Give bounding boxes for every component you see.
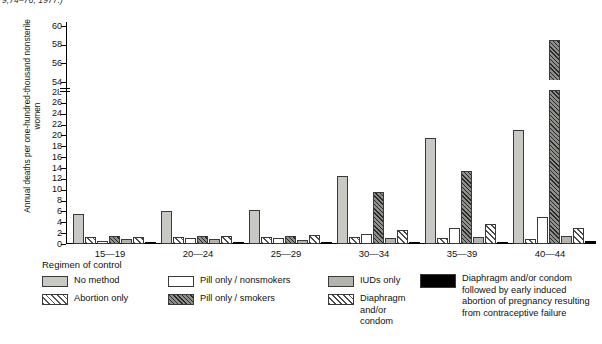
y-axis-tick-labels: 024681012141618202224262854565860 [30, 22, 62, 244]
bar[interactable] [197, 236, 208, 244]
bar[interactable] [221, 236, 232, 244]
legend-swatch-pill-smokers [168, 294, 194, 305]
bar[interactable] [233, 242, 244, 244]
bar-break-gap [549, 80, 560, 83]
bar[interactable] [161, 211, 172, 244]
x-axis-group-label: 40—44 [506, 248, 594, 259]
bar[interactable] [449, 228, 460, 244]
bar[interactable] [133, 237, 144, 244]
legend-item-abortion-only[interactable]: Abortion only [42, 293, 128, 305]
x-axis-group-label: 30—34 [330, 248, 418, 259]
bar-group [249, 22, 332, 244]
y-axis-line [66, 22, 67, 244]
bar-group [425, 22, 508, 244]
bar[interactable] [537, 217, 548, 244]
bar-group [513, 22, 596, 244]
legend-swatch-pill-nonsmokers [168, 276, 194, 287]
chart-figure: 9;74–76, 1977.) Annual deaths per one-hu… [0, 0, 602, 344]
legend-swatch-diaphragm-condom [328, 294, 354, 305]
legend-label-pill-nonsmokers: Pill only / nonsmokers [200, 275, 290, 287]
bar[interactable] [273, 238, 284, 245]
bar[interactable] [525, 239, 536, 244]
bar[interactable] [349, 237, 360, 244]
bar[interactable] [409, 242, 420, 244]
legend-item-diaphragm-condom[interactable]: Diaphragm and/or condom [328, 293, 405, 328]
bar[interactable] [185, 238, 196, 244]
bar[interactable] [497, 242, 508, 244]
bar[interactable] [437, 238, 448, 244]
legend-label-no-method: No method [74, 275, 119, 287]
bar[interactable] [173, 237, 184, 244]
legend-swatch-no-method [42, 276, 68, 287]
bar-group [73, 22, 156, 244]
legend-label-diaphragm-plus-abortion: Diaphragm and/or condom followed by earl… [462, 273, 590, 319]
legend-item-iuds-only[interactable]: IUDs only [328, 275, 400, 287]
bar[interactable] [309, 235, 320, 244]
bar[interactable] [209, 239, 220, 244]
plot-area: 15—1920—2425—2930—3435—3940—44 [66, 22, 594, 244]
bar[interactable] [585, 241, 596, 244]
bar[interactable] [337, 176, 348, 244]
y-tick-mark [61, 244, 66, 245]
bar[interactable] [561, 236, 572, 244]
bar[interactable] [97, 241, 108, 244]
bar[interactable] [473, 237, 484, 244]
bar-group [161, 22, 244, 244]
legend-title: Regimen of control [42, 259, 122, 270]
legend-swatch-iuds-only [328, 276, 354, 287]
bar[interactable] [361, 234, 372, 244]
bar[interactable] [109, 236, 120, 244]
bar[interactable] [297, 240, 308, 244]
bar[interactable] [145, 242, 156, 244]
legend-item-pill-smokers[interactable]: Pill only / smokers [168, 293, 275, 305]
bar-upper-segment[interactable] [549, 40, 560, 82]
source-note: 9;74–76, 1977.) [2, 0, 63, 5]
bar[interactable] [485, 224, 496, 244]
bar[interactable] [425, 138, 436, 244]
bar[interactable] [513, 130, 524, 244]
bar-group [337, 22, 420, 244]
bar[interactable] [261, 237, 272, 244]
bar[interactable] [397, 230, 408, 244]
bar[interactable] [549, 90, 560, 244]
bar[interactable] [461, 171, 472, 244]
legend-item-no-method[interactable]: No method [42, 275, 119, 287]
legend-label-abortion-only: Abortion only [74, 293, 128, 305]
legend-swatch-abortion-only [42, 294, 68, 305]
bar[interactable] [121, 239, 132, 244]
legend-label-diaphragm-condom: Diaphragm and/or condom [360, 293, 405, 328]
bar[interactable] [573, 228, 584, 244]
legend-item-diaphragm-plus-abortion[interactable]: Diaphragm and/or condom followed by earl… [420, 273, 590, 319]
bar[interactable] [321, 242, 332, 244]
bar[interactable] [73, 214, 84, 244]
bar[interactable] [285, 236, 296, 244]
bar[interactable] [373, 192, 384, 244]
bar[interactable] [249, 210, 260, 244]
legend-label-pill-smokers: Pill only / smokers [200, 293, 275, 305]
x-axis-group-label: 25—29 [242, 248, 330, 259]
legend: Regimen of control No method Abortion on… [42, 259, 598, 343]
x-axis-group-label: 35—39 [418, 248, 506, 259]
legend-item-pill-nonsmokers[interactable]: Pill only / nonsmokers [168, 275, 290, 287]
legend-label-iuds-only: IUDs only [360, 275, 400, 287]
bar[interactable] [385, 238, 396, 244]
bar[interactable] [85, 237, 96, 244]
legend-swatch-diaphragm-plus-abortion [420, 274, 456, 288]
x-axis-group-label: 15—19 [66, 248, 154, 259]
x-axis-group-label: 20—24 [154, 248, 242, 259]
